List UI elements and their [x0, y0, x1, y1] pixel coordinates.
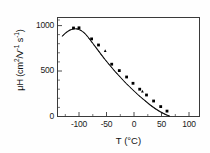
y-tick-label-1000: 1000: [22, 21, 54, 30]
y-axis-label-prefix: μH (cm: [15, 62, 25, 91]
y-axis-label-suffix: ): [15, 29, 25, 32]
y-axis-label-sup3: -1: [13, 32, 20, 38]
x-axis-label: T (°C): [57, 135, 200, 146]
x-tick-label-neg50: -50: [93, 120, 120, 129]
y-major-ticks: [57, 26, 62, 117]
y-tick-label-500: 500: [22, 66, 54, 75]
y-axis-label-sup1: 2: [13, 59, 20, 63]
x-tick-label-50: 50: [149, 120, 174, 129]
y-axis-label-mid2: s: [15, 38, 25, 45]
figure-container: 1000 500 0 -100 -50 0 50 100 μH (cm2/V-1…: [0, 0, 210, 153]
x-tick-label-100: 100: [175, 120, 203, 129]
y-axis-label-mid: /V: [15, 50, 25, 58]
measured-curve: [62, 29, 170, 116]
x-tick-label-0: 0: [122, 120, 146, 129]
x-minor-ticks: [65, 114, 175, 117]
x-tick-label-neg100: -100: [64, 120, 94, 129]
x-major-ticks: [79, 112, 189, 117]
data-point-markers: [72, 26, 168, 112]
y-minor-ticks: [57, 20, 60, 107]
y-axis-label-sup2: -1: [13, 45, 20, 51]
y-tick-label-0: 0: [22, 112, 54, 121]
y-axis-label: μH (cm2/V-1 s-1): [15, 4, 25, 116]
